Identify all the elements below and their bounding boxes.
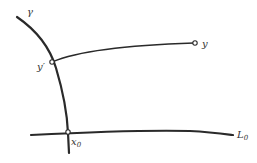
point-y [193, 41, 197, 45]
x0-label: x0 [71, 136, 82, 149]
diagram-canvas: γ y′ y x0 L0 [0, 0, 257, 163]
path-yprime-to-y [52, 43, 194, 62]
x0-subscript: 0 [77, 141, 82, 149]
L0-subscript: 0 [244, 134, 249, 142]
gamma-label: γ [27, 6, 33, 17]
line-L0 [31, 131, 233, 135]
y-prime-label: y′ [36, 61, 46, 72]
L0-label: L0 [236, 129, 249, 142]
y-label: y [201, 38, 208, 49]
point-y-prime [50, 60, 54, 64]
point-x0 [66, 130, 70, 134]
